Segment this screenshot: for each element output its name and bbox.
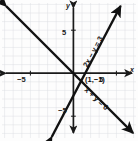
y-axis-name-label: y <box>66 2 70 9</box>
coordinate-plane-figure: −5 5 5 −5 x y 2x − y = 3 x + y = 0 (1,−1… <box>0 0 138 141</box>
x-axis-name-label: x <box>130 66 134 73</box>
graph-canvas <box>0 0 138 141</box>
y-axis-tick-label-neg5: −5 <box>58 107 67 115</box>
y-axis-tick-label-5: 5 <box>62 29 66 37</box>
x-axis-tick-label-neg5: −5 <box>17 76 26 84</box>
intersection-point-marker <box>81 81 83 83</box>
intersection-point-label: (1,−1) <box>85 76 105 84</box>
